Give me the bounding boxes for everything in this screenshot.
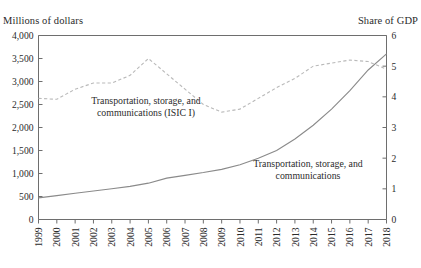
x-tick-label: 2012 [271,227,282,246]
x-tick-label: 2011 [253,227,264,246]
x-tick-label: 2016 [344,227,355,246]
right-tick-label: 0 [392,214,397,225]
x-tick-label: 2017 [363,227,374,246]
dashed-series-label: Transportation, storage, andcommunicatio… [91,95,201,119]
left-axis-ticks: 05001,0001,5002,0002,5003,0003,5004,000 [12,30,43,225]
x-tick-label: 2004 [125,227,136,246]
right-tick-label: 3 [392,122,397,133]
x-tick-label: 2005 [143,227,154,246]
x-tick-label: 2001 [70,227,81,246]
svg-text:communications (ISIC I): communications (ISIC I) [97,107,195,119]
left-tick-label: 2,500 [12,99,34,110]
x-tick-label: 2013 [290,227,301,246]
left-tick-label: 1,000 [12,168,34,179]
chart-figure: Millions of dollars Share of GDP 05001,0… [0,0,421,268]
plot-area: 05001,0001,5002,0002,5003,0003,5004,000 … [0,0,421,268]
right-tick-label: 2 [392,153,397,164]
x-tick-label: 2010 [235,227,246,246]
left-tick-label: 1,500 [12,145,34,156]
svg-text:Transportation, storage, and: Transportation, storage, and [91,95,201,106]
x-tick-label: 2014 [308,227,319,246]
x-tick-label: 2018 [381,227,392,246]
right-tick-label: 5 [392,61,397,72]
x-tick-label: 2009 [216,227,227,246]
x-tick-label: 2007 [180,227,191,246]
left-tick-label: 3,000 [12,76,34,87]
solid-series-label: Transportation, storage, andcommunicatio… [253,158,363,181]
left-tick-label: 2,000 [12,122,34,133]
right-tick-label: 1 [392,183,397,194]
left-tick-label: 3,500 [12,53,34,64]
left-tick-label: 4,000 [12,30,34,41]
x-tick-label: 1999 [33,227,44,246]
x-tick-label: 2003 [106,227,117,246]
right-tick-label: 6 [392,30,397,41]
right-axis-ticks: 0123456 [383,30,397,225]
svg-text:Transportation, storage, and: Transportation, storage, and [253,158,363,169]
left-tick-label: 0 [29,214,34,225]
x-tick-label: 2008 [198,227,209,246]
x-tick-label: 2006 [161,227,172,246]
right-tick-label: 4 [392,91,397,102]
x-axis-ticks: 1999200020012002200320042005200620072008… [33,220,392,247]
x-tick-label: 2002 [88,227,99,246]
x-tick-label: 2000 [51,227,62,246]
svg-text:communications: communications [276,170,341,181]
x-tick-label: 2015 [326,227,337,246]
left-tick-label: 500 [19,191,34,202]
